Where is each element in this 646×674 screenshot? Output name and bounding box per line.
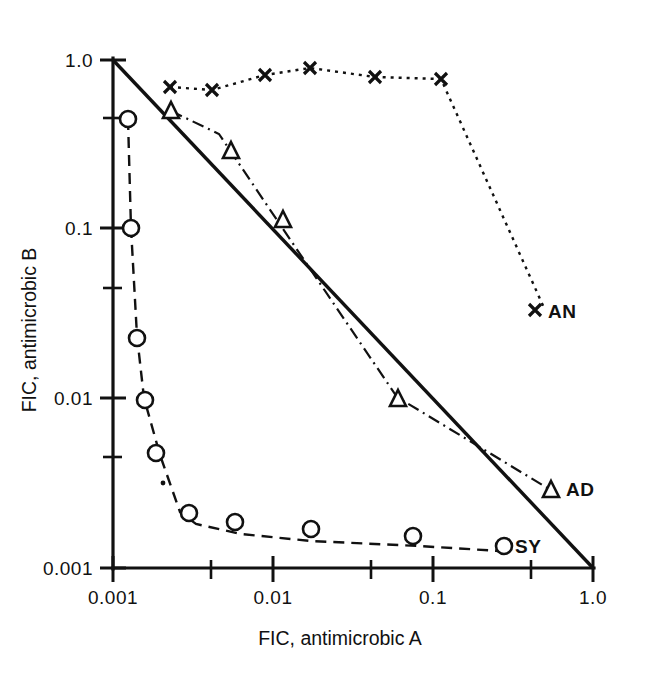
x-tick-label-1: 0.001 [88,587,138,608]
y-axis-title: FIC, antimicrobic B [18,248,40,413]
series-label-sy: SY [515,536,541,557]
series-ad-line [171,111,549,489]
y-tick-label-4: 0.001 [43,558,93,579]
series-sy: SY [120,111,541,557]
series-ad-markers [163,102,559,497]
additivity-line [113,60,593,568]
series-an-line [170,68,545,310]
y-tick-label-3: 0.01 [54,388,93,409]
x-tick-label-2: 0.01 [254,587,293,608]
series-an-markers [164,62,541,316]
y-tick-label-2: 0.1 [65,218,93,239]
series-an: AN [164,62,576,322]
x-axis-tick-labels: 0.001 0.01 0.1 1.0 [88,587,607,608]
series-label-an: AN [548,301,576,322]
series-sy-line [128,119,500,551]
x-tick-label-4: 1.0 [579,587,607,608]
series-sy-markers [120,111,512,554]
x-axis-title: FIC, antimicrobic A [258,627,422,649]
x-tick-label-3: 0.1 [419,587,447,608]
ink-speck [161,481,166,486]
y-tick-label-1: 1.0 [65,50,93,71]
isobologram-figure: 1.0 0.1 0.01 0.001 0.001 0.01 0.1 1.0 FI… [0,0,646,674]
series-label-ad: AD [566,479,594,500]
y-axis-tick-labels: 1.0 0.1 0.01 0.001 [43,50,93,579]
chart-canvas: 1.0 0.1 0.01 0.001 0.001 0.01 0.1 1.0 FI… [0,0,646,674]
series-ad: AD [163,102,594,500]
